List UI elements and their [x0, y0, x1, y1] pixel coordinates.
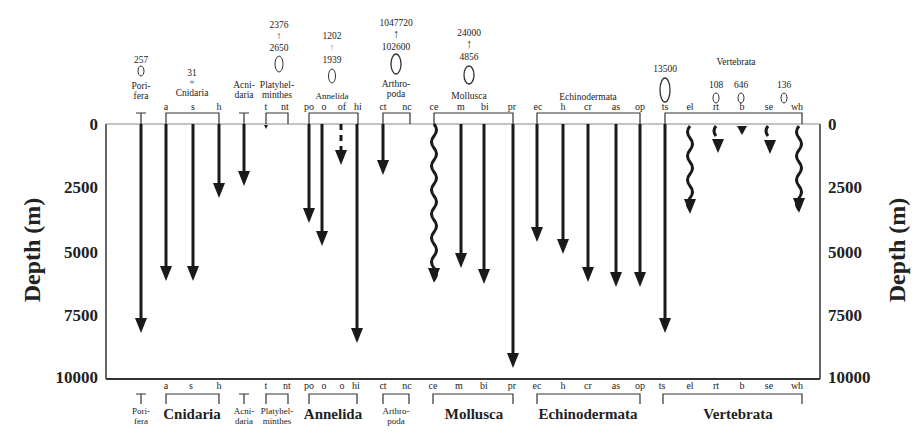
bottom-brackets	[136, 394, 802, 404]
top-codes: a s h t nt po o of hi ct nc ce m bi pr e…	[164, 101, 803, 112]
platy-blob-icon	[275, 56, 283, 72]
bcode-po: po	[304, 380, 314, 391]
bcode-pr: pr	[508, 380, 517, 391]
b-acnidaria-1: Acni-	[234, 406, 255, 416]
code-of: of	[338, 101, 347, 112]
arrow-echino-h	[557, 124, 569, 254]
bcode-rt: rt	[713, 380, 719, 391]
cnidaria-label: Cnidaria	[176, 88, 209, 98]
ts-count: 13500	[653, 64, 677, 74]
y-axis-left: 0 2500 5000 7500 10000	[56, 115, 99, 387]
b-echinodermata: Echinodermata	[538, 406, 638, 422]
arthropoda-count: 102600	[382, 42, 411, 52]
annelida-count-upper: 1202	[323, 31, 342, 41]
arthropoda-label-1: Arthro-	[382, 79, 411, 89]
annelida-label: Annelida	[316, 91, 349, 101]
bcode-ec: ec	[533, 380, 542, 391]
b-arthropoda-1: Arthro-	[383, 406, 410, 416]
arrow-vert-b	[737, 126, 747, 135]
annelida-top-bracket	[309, 113, 358, 124]
b-porifera-1: Pori-	[132, 406, 150, 416]
cnidaria-count: 31	[187, 68, 197, 78]
bcode-wh: wh	[791, 380, 803, 391]
code-h: h	[217, 101, 222, 112]
vertebrata-bottom-bracket	[663, 394, 802, 404]
bcode-h2: h	[561, 380, 566, 391]
platy-count-upper: 2376	[270, 20, 289, 30]
porifera-label-2: fera	[134, 91, 150, 101]
porifera-count: 257	[134, 55, 149, 65]
code-op: op	[635, 101, 645, 112]
arthropoda-label-2: poda	[387, 89, 406, 99]
tick-0: 0	[90, 115, 99, 134]
code-as: as	[612, 101, 620, 112]
top-phylum-labels: 257 Pori- fera 31 ∞ Cnidaria Acni- daria…	[132, 18, 792, 103]
mollusca-count: 4856	[460, 52, 479, 62]
code-nc: nc	[402, 101, 412, 112]
arrow-mollusca-m	[455, 124, 467, 268]
porifera-bottom-tick	[136, 394, 146, 404]
arrow-vert-wh	[793, 126, 805, 213]
b-count: 646	[734, 80, 749, 90]
code-wh: wh	[791, 101, 803, 112]
bcode-nc: nc	[402, 380, 412, 391]
bcode-as: as	[612, 380, 620, 391]
vertebrata-top-bracket	[665, 113, 802, 124]
b-porifera-2: fera	[134, 416, 148, 426]
mollusca-blob-icon	[464, 66, 474, 84]
arrow-annelida-of	[335, 124, 347, 165]
code-o: o	[322, 101, 327, 112]
y-axis-right: 0 2500 5000 7500 10000	[828, 115, 871, 387]
tick-0-right: 0	[828, 115, 837, 134]
bottom-codes: a s h t nt po o o hi ct nc ce m bi pr ec…	[164, 380, 803, 391]
arthropoda-blob-icon	[391, 54, 401, 74]
mollusca-up-arrow-icon: ↑	[466, 37, 472, 51]
code-se: se	[765, 101, 774, 112]
code-ct: ct	[379, 101, 386, 112]
acnidaria-top-tick	[239, 113, 249, 124]
bcode-o2: o	[340, 380, 345, 391]
b-platy-2: minthes	[263, 416, 292, 426]
rt-count: 108	[709, 80, 724, 90]
echinodermata-top-bracket	[537, 113, 640, 124]
arrow-cnidaria-s	[187, 124, 199, 281]
code-hi: hi	[354, 101, 362, 112]
annelida-count: 1939	[323, 55, 342, 65]
bcode-se: se	[765, 380, 774, 391]
annelida-bottom-bracket	[309, 394, 357, 404]
acnidaria-bottom-tick	[239, 394, 249, 404]
top-brackets	[136, 113, 802, 124]
code-po: po	[304, 101, 314, 112]
code-el: el	[686, 101, 693, 112]
arrow-vert-el	[684, 126, 696, 214]
code-h2: h	[561, 101, 566, 112]
bcode-s: s	[189, 380, 193, 391]
tick-10000: 10000	[56, 368, 99, 387]
arrow-annelida-hi	[351, 124, 363, 343]
tick-7500-right: 7500	[828, 306, 862, 325]
porifera-blob-icon	[138, 66, 144, 76]
tick-7500: 7500	[64, 306, 98, 325]
porifera-top-tick	[136, 113, 146, 124]
mollusca-top-bracket	[434, 113, 513, 124]
arrow-mollusca-pr	[507, 124, 519, 368]
arrow-mollusca-ce	[428, 124, 440, 283]
tick-2500-right: 2500	[828, 178, 862, 197]
bcode-a: a	[164, 380, 169, 391]
b-arthropoda-2: poda	[387, 416, 405, 426]
code-ce: ce	[430, 101, 439, 112]
bcode-o: o	[322, 380, 327, 391]
code-cr: cr	[584, 101, 592, 112]
arrow-cnidaria-a	[160, 124, 172, 281]
platy-label-2: minthes	[262, 90, 292, 100]
arthropoda-up-arrow-icon: ↑	[393, 27, 399, 41]
bcode-el: el	[686, 380, 693, 391]
vertebrata-label: Vertebrata	[716, 57, 756, 67]
b-cnidaria: Cnidaria	[163, 406, 221, 422]
mollusca-bottom-bracket	[433, 394, 513, 404]
depth-chart: 0 2500 5000 7500 10000 Depth (m) 0 2500 …	[0, 0, 924, 441]
arrow-platy-t	[264, 125, 268, 129]
code-s: s	[191, 101, 195, 112]
code-bi: bi	[481, 101, 489, 112]
arthropoda-bottom-bracket	[383, 394, 409, 404]
